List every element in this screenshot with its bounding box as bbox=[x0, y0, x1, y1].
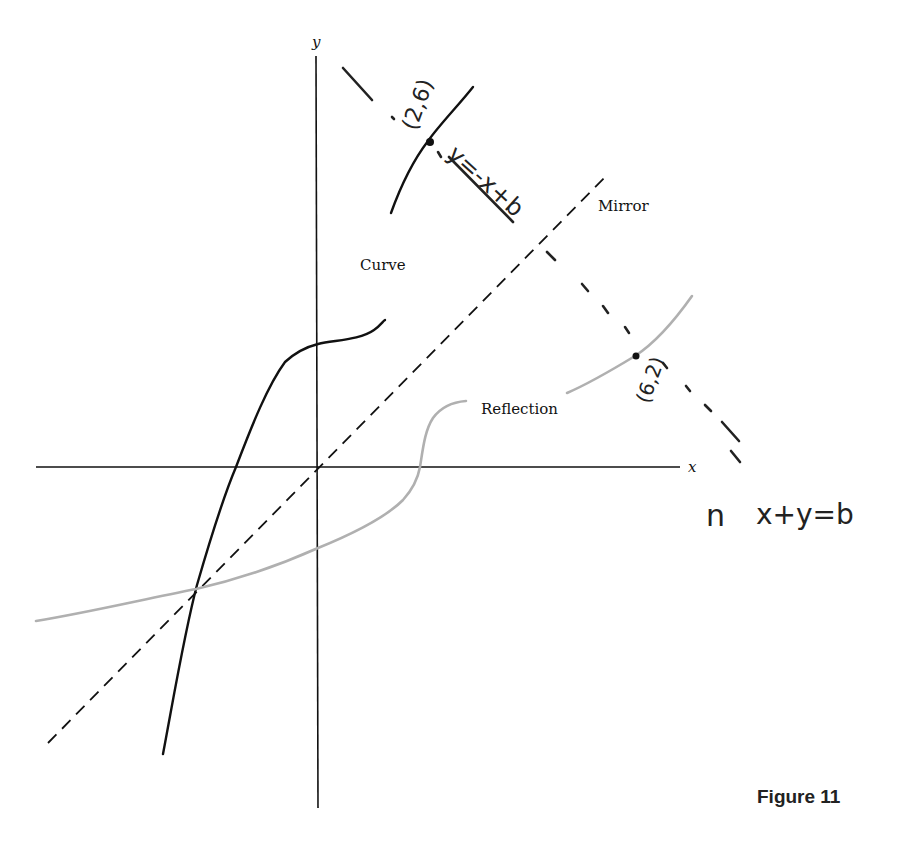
mirror-line bbox=[48, 176, 606, 743]
reflection-diagram: x y Mirror Curve Reflection (2,6) y=-x+b… bbox=[0, 0, 905, 849]
curve-lower bbox=[163, 320, 385, 754]
y-axis bbox=[316, 56, 318, 808]
reflection-upper bbox=[567, 296, 692, 393]
y-axis-label: y bbox=[311, 33, 321, 51]
point-on-curve bbox=[426, 138, 434, 146]
reflection-lower bbox=[36, 401, 466, 621]
reflection-label: Reflection bbox=[481, 400, 558, 418]
point-on-reflection bbox=[633, 353, 640, 360]
annotation-point-curve: (2,6) bbox=[397, 76, 438, 134]
figure-caption: Figure 11 bbox=[757, 786, 841, 807]
x-axis-label: x bbox=[688, 458, 697, 476]
annotation-line-equation: y=-x+b bbox=[442, 140, 529, 223]
annotation-point-reflection: (6,2) bbox=[631, 353, 670, 406]
annotation-side-mark: n bbox=[706, 498, 725, 533]
curve-label: Curve bbox=[360, 256, 406, 274]
svg-text:(2,6): (2,6) bbox=[397, 76, 438, 134]
mirror-label: Mirror bbox=[598, 197, 650, 215]
svg-text:(6,2): (6,2) bbox=[631, 353, 670, 406]
svg-text:y=-x+b: y=-x+b bbox=[442, 140, 529, 223]
annotation-side-equation: x+y=b bbox=[756, 498, 854, 531]
